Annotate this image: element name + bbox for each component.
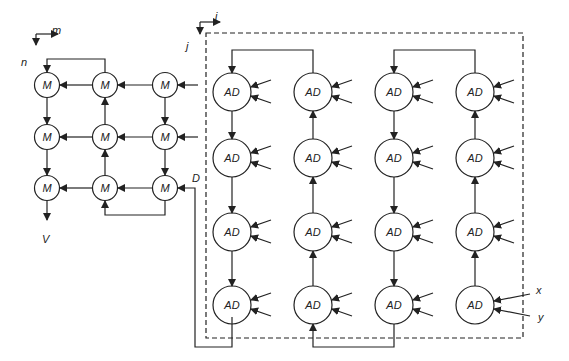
diagram-canvas — [0, 0, 569, 361]
x-input-arrow — [494, 294, 530, 301]
ad-node-label: AD — [467, 226, 482, 238]
v-output-label: V — [42, 233, 49, 245]
m-axis-label: m — [52, 24, 61, 36]
ad-input-arrows — [251, 80, 530, 316]
m-node-label: M — [42, 182, 51, 194]
m-node-label: M — [42, 79, 51, 91]
m-node-label: M — [160, 79, 169, 91]
m-node-label: M — [100, 182, 109, 194]
j-axis-label: j — [186, 40, 188, 52]
ad-node-label: AD — [386, 299, 401, 311]
y-input-arrow — [494, 309, 530, 316]
d-input-label: D — [192, 172, 200, 184]
ad-node-label: AD — [305, 226, 320, 238]
ad-node-label: AD — [386, 226, 401, 238]
ad-node-circles — [213, 73, 494, 324]
m-node-label: M — [100, 131, 109, 143]
ad-node-label: AD — [224, 226, 239, 238]
m-node-label: M — [42, 131, 51, 143]
d-feedback-wire — [178, 188, 232, 347]
ad-node-label: AD — [224, 299, 239, 311]
ad-node-label: AD — [467, 299, 482, 311]
i-axis-label: i — [215, 10, 217, 22]
systolic-array-diagram: m n V D i j x y M M M M M M M M M AD AD … — [0, 0, 569, 361]
m-node-label: M — [100, 79, 109, 91]
ad-node-label: AD — [467, 86, 482, 98]
ad-node-label: AD — [305, 152, 320, 164]
m-node-label: M — [160, 131, 169, 143]
m-node-label: M — [160, 182, 169, 194]
y-input-label: y — [538, 311, 544, 323]
ad-node-label: AD — [305, 86, 320, 98]
ad-node-label: AD — [224, 152, 239, 164]
ad-node-label: AD — [305, 299, 320, 311]
ad-node-label: AD — [386, 152, 401, 164]
ad-node-label: AD — [386, 86, 401, 98]
x-input-label: x — [536, 284, 542, 296]
ad-node-label: AD — [467, 152, 482, 164]
n-axis-label: n — [21, 56, 27, 68]
ad-node-label: AD — [224, 86, 239, 98]
